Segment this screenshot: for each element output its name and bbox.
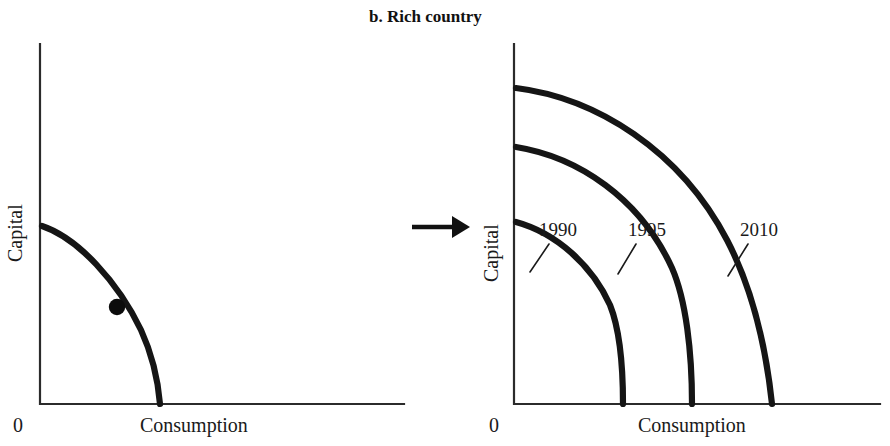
curve-label-2010: 2010 [740, 219, 778, 240]
left-y-axis-label: Capital [4, 204, 27, 262]
left-x-axis-label: Consumption [140, 414, 248, 437]
right-origin-label: 0 [489, 414, 499, 436]
production-point [109, 299, 125, 315]
curve-label-1995: 1995 [628, 219, 666, 240]
page-title: b. Rich country [369, 7, 482, 26]
right-y-axis-label: Capital [480, 224, 503, 282]
curve-label-1990: 1990 [539, 219, 577, 240]
right-x-axis-label: Consumption [638, 414, 746, 437]
ppf-shift-figure: b. Rich country Capital Consumption 0 19… [0, 0, 890, 446]
left-origin-label: 0 [13, 414, 23, 436]
